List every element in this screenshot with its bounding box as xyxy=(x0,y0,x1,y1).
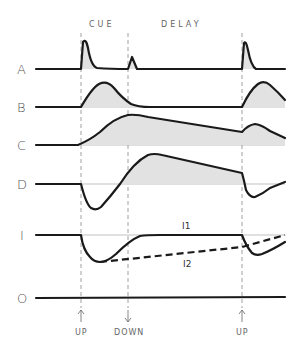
trace-d xyxy=(36,154,285,209)
event-label-up-2: UP xyxy=(236,328,249,337)
trace-i xyxy=(36,235,285,262)
phase-label-delay: DELAY xyxy=(161,20,202,29)
event-label-up-1: UP xyxy=(75,328,88,337)
row-label-i: I xyxy=(20,228,24,243)
trace-a xyxy=(36,41,285,69)
curve-label-i2: I2 xyxy=(183,259,191,269)
neural-circuit-timing-diagram: CUE DELAY A B C D I O xyxy=(0,0,301,356)
trace-i1 xyxy=(36,235,285,262)
trace-o xyxy=(36,297,285,298)
event-label-down: DOWN xyxy=(114,328,144,337)
curve-label-i1: I1 xyxy=(182,221,190,231)
row-label-d: D xyxy=(17,177,27,192)
trace-b xyxy=(36,82,285,107)
row-label-o: O xyxy=(17,291,27,306)
phase-label-cue: CUE xyxy=(89,20,115,29)
down-arrow-icon xyxy=(125,310,131,322)
up-arrow-icon-2 xyxy=(239,310,245,322)
row-label-a: A xyxy=(17,62,26,77)
up-arrow-icon-1 xyxy=(78,310,84,322)
row-label-c: C xyxy=(17,138,26,153)
row-label-b: B xyxy=(17,100,26,115)
trace-c xyxy=(36,115,285,145)
